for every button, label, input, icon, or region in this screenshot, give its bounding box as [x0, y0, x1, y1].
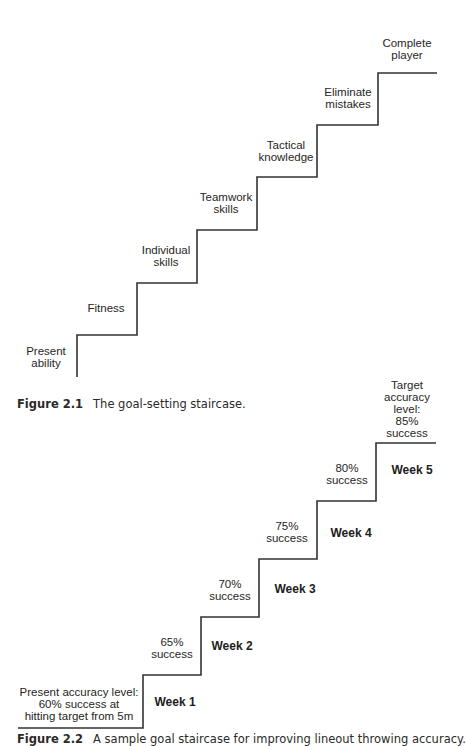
step-label-present-ability: Present ability	[26, 345, 66, 369]
figure-number: Figure 2.2	[17, 732, 83, 746]
week-3-label: Week 3	[274, 583, 315, 596]
step-label-80: 80% success	[326, 462, 368, 486]
present-accuracy-label: Present accuracy level: 60% success at h…	[20, 686, 139, 722]
step-label-teamwork-skills: Teamwork skills	[200, 191, 252, 215]
goal-setting-staircase-line	[77, 73, 437, 377]
step-label-65: 65% success	[151, 636, 193, 660]
step-label-tactical-knowledge: Tactical knowledge	[259, 139, 314, 163]
step-label-fitness: Fitness	[87, 302, 124, 314]
figure-2-1-caption: Figure 2.1The goal-setting staircase.	[17, 397, 246, 411]
step-label-complete-player: Complete player	[382, 37, 431, 61]
figure-caption-text: The goal-setting staircase.	[93, 397, 246, 411]
week-1-label: Week 1	[154, 696, 195, 709]
figure-caption-text: A sample goal staircase for improving li…	[93, 732, 466, 746]
step-label-individual-skills: Individual skills	[142, 244, 191, 268]
week-5-label: Week 5	[391, 464, 432, 477]
figure-number: Figure 2.1	[17, 397, 83, 411]
week-2-label: Week 2	[211, 640, 252, 653]
target-accuracy-label: Target accuracy level: 85% success	[384, 379, 430, 439]
step-label-75: 75% success	[266, 520, 308, 544]
step-label-70: 70% success	[209, 578, 251, 602]
figure-2-2-caption: Figure 2.2A sample goal staircase for im…	[17, 732, 466, 746]
step-label-eliminate-mistakes: Eliminate mistakes	[324, 86, 371, 110]
week-4-label: Week 4	[330, 527, 371, 540]
